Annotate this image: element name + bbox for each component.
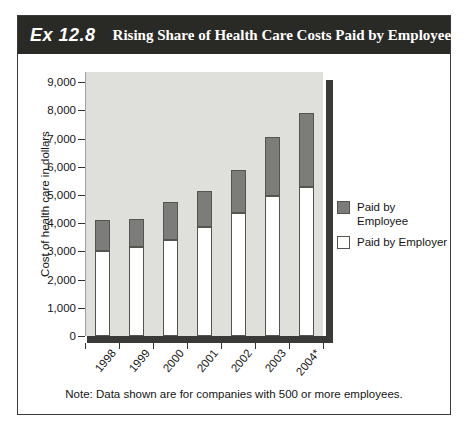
exhibit-header: Ex 12.8 Rising Share of Health Care Cost…	[18, 16, 450, 54]
x-tick-mark	[255, 343, 256, 349]
bar-2001-employer-segment	[197, 227, 212, 336]
bar-2004-employer-segment	[299, 187, 314, 336]
legend-label: Paid by Employee	[357, 200, 419, 228]
x-tick-label-2001: 2001	[183, 347, 220, 388]
x-tick-mark	[187, 343, 188, 349]
x-tick-label-2003: 2003	[251, 347, 288, 388]
y-tick-mark	[78, 251, 85, 252]
y-tick-mark	[78, 308, 85, 309]
bar-1999-employer-segment	[129, 247, 144, 336]
note-text: Note: Data shown are for companies with …	[18, 388, 450, 400]
x-tick-mark	[85, 343, 86, 349]
y-tick-mark	[78, 82, 85, 83]
exhibit-title: Rising Share of Health Care Costs Paid b…	[113, 27, 457, 44]
bar-2003-employee-segment	[265, 137, 280, 196]
bar-1998-employee-segment	[95, 220, 110, 251]
bar-2000-employer-segment	[163, 240, 178, 336]
x-tick-mark	[289, 343, 290, 349]
chart-area: Cost of health care in dollars 9,0008,00…	[18, 54, 450, 414]
bar-2004-employee-segment	[299, 113, 314, 186]
y-tick-label: 4,000	[34, 216, 76, 230]
bar-1998-employer-segment	[95, 251, 110, 336]
employer-swatch-icon	[337, 236, 350, 249]
y-tick-label: 6,000	[34, 160, 76, 174]
x-tick-label-1998: 1998	[81, 347, 118, 388]
y-tick-mark	[78, 336, 85, 337]
y-tick-mark	[78, 139, 85, 140]
bar-2001-employee-segment	[197, 191, 212, 228]
x-tick-label-2000: 2000	[149, 347, 186, 388]
plot-shadow-bottom	[87, 336, 333, 343]
bar-1999-employee-segment	[129, 219, 144, 247]
bar-2002-employer-segment	[231, 213, 246, 336]
exhibit-figure: Ex 12.8 Rising Share of Health Care Cost…	[17, 15, 451, 415]
x-tick-mark	[119, 343, 120, 349]
bar-2000-employee-segment	[163, 202, 178, 240]
x-tick-label-2002: 2002	[217, 347, 254, 388]
bar-2003-employer-segment	[265, 196, 280, 336]
bar-2002-employee-segment	[231, 170, 246, 214]
x-tick-label-1999: 1999	[115, 347, 152, 388]
legend-label: Paid by Employer	[357, 235, 447, 249]
y-tick-label: 1,000	[34, 301, 76, 315]
legend-entry-employee: Paid by Employee	[337, 200, 447, 228]
y-tick-mark	[78, 110, 85, 111]
x-tick-mark	[323, 343, 324, 349]
employee-swatch-icon	[337, 201, 350, 214]
y-tick-label: 3,000	[34, 244, 76, 258]
legend: Paid by Employee Paid by Employer	[337, 200, 447, 256]
y-tick-mark	[78, 167, 85, 168]
y-tick-label: 9,000	[34, 75, 76, 89]
legend-entry-employer: Paid by Employer	[337, 235, 447, 249]
x-tick-mark	[153, 343, 154, 349]
y-tick-label: 8,000	[34, 103, 76, 117]
x-tick-mark	[221, 343, 222, 349]
x-tick-label-2004: 2004*	[285, 347, 322, 388]
y-tick-mark	[78, 280, 85, 281]
y-tick-label: 7,000	[34, 132, 76, 146]
plot-shadow-right	[326, 80, 333, 343]
y-tick-label: 5,000	[34, 188, 76, 202]
page: Ex 12.8 Rising Share of Health Care Cost…	[0, 0, 470, 436]
exhibit-number: Ex 12.8	[30, 25, 96, 46]
y-tick-mark	[78, 195, 85, 196]
y-tick-label: 2,000	[34, 273, 76, 287]
y-tick-label: 0	[34, 329, 76, 343]
y-tick-mark	[78, 223, 85, 224]
